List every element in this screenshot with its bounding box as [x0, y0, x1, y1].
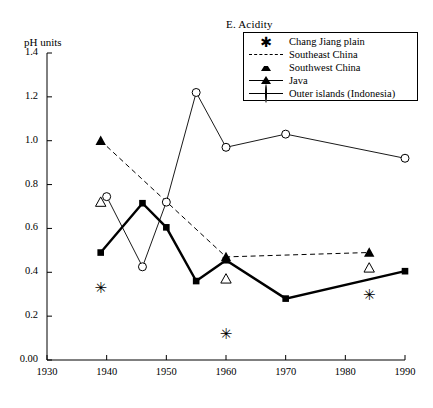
data-point-open-circle: [192, 88, 200, 96]
data-point-asterisk: ✳: [363, 286, 376, 304]
data-point-filled-square: [139, 200, 146, 207]
data-point-open-circle: [222, 143, 230, 151]
x-tick-label: 1940: [87, 366, 127, 377]
data-point-open-circle: [103, 193, 111, 201]
data-point-open-triangle: [221, 274, 231, 283]
series-java: [97, 200, 408, 302]
y-tick-label: 0.2: [8, 309, 38, 320]
y-tick-label: 1.0: [8, 134, 38, 145]
data-point-open-circle: [162, 198, 170, 206]
data-point-filled-square: [163, 224, 170, 231]
data-point-filled-square: [193, 278, 200, 285]
series-southeast-china: [96, 136, 375, 262]
data-point-filled-square: [223, 257, 230, 264]
series-line: [101, 203, 405, 298]
data-point-asterisk: ✳: [220, 325, 233, 343]
data-point-open-circle: [138, 263, 146, 271]
data-point-open-circle: [401, 154, 409, 162]
y-tick-label: 0.00: [8, 353, 38, 364]
series-line: [101, 141, 370, 257]
chart-root: pH units E. Acidity ✱ Chang Jiang plain …: [0, 0, 433, 408]
data-point-open-circle: [282, 130, 290, 138]
x-tick-label: 1970: [266, 366, 306, 377]
data-point-filled-square: [97, 249, 104, 256]
series-line: [107, 93, 405, 267]
x-tick-label: 1960: [206, 366, 246, 377]
data-point-open-triangle: [364, 263, 374, 272]
y-tick-label: 0.6: [8, 221, 38, 232]
x-tick-label: 1930: [27, 366, 67, 377]
y-tick-label: 1.2: [8, 90, 38, 101]
x-tick-label: 1980: [325, 366, 365, 377]
data-point-filled-triangle: [364, 247, 374, 256]
y-tick-label: 0.8: [8, 178, 38, 189]
x-tick-label: 1990: [385, 366, 425, 377]
data-point-filled-square: [402, 268, 409, 275]
data-point-asterisk: ✳: [94, 279, 107, 297]
data-point-filled-triangle: [96, 136, 106, 145]
data-point-filled-square: [282, 295, 289, 302]
x-tick-label: 1950: [146, 366, 186, 377]
plot-area: ✳✳✳: [0, 0, 433, 408]
series-outer-islands-indonesia: [103, 88, 409, 270]
y-tick-label: 1.4: [8, 46, 38, 57]
y-tick-label: 0.4: [8, 265, 38, 276]
